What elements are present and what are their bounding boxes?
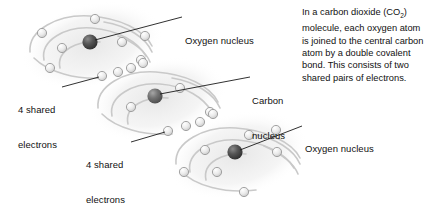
label-text: Carbon: [252, 95, 285, 107]
electron: [179, 167, 188, 176]
electron: [140, 31, 149, 40]
label-text: Oxygen nucleus: [185, 35, 254, 47]
label-text: electrons: [86, 194, 125, 206]
shared-electron: [195, 117, 204, 126]
oxygen-left-nucleus: [82, 34, 97, 49]
electron: [200, 145, 209, 154]
electron: [90, 14, 99, 23]
electron: [117, 37, 126, 46]
shared-electron: [113, 67, 122, 76]
label-oxygen-nucleus-top: Oxygen nucleus: [185, 12, 254, 70]
electron: [212, 167, 221, 176]
shared-electron: [97, 71, 106, 80]
electron: [57, 43, 66, 52]
electron: [126, 102, 135, 111]
label-text: nucleus: [252, 130, 285, 142]
shared-electron: [138, 58, 147, 67]
shared-electron: [126, 63, 135, 72]
label-text: electrons: [18, 139, 57, 151]
label-carbon-nucleus: Carbon nucleus: [252, 72, 285, 164]
label-text: 4 shared: [18, 104, 57, 116]
oxygen-right-nucleus: [227, 144, 242, 159]
electron: [37, 28, 46, 37]
shared-electron: [208, 109, 217, 118]
electron: [45, 63, 54, 72]
figure-caption: In a carbon dioxide (CO2) molecule, each…: [302, 6, 428, 84]
shared-electron: [181, 121, 190, 130]
label-oxygen-nucleus-bottom: Oxygen nucleus: [305, 120, 374, 178]
label-text: 4 shared: [86, 159, 125, 171]
shared-electron: [163, 126, 172, 135]
label-shared-electrons-top: 4 shared electrons: [18, 81, 57, 173]
caption-part-2: ) molecule, each oxygen atom is joined t…: [302, 7, 423, 83]
label-shared-electrons-bottom: 4 shared electrons: [86, 136, 125, 212]
figure-canvas: Oxygen nucleus Carbon nucleus Oxygen nuc…: [0, 0, 432, 212]
caption-part-1: In a carbon dioxide (CO: [302, 7, 400, 17]
label-text: Oxygen nucleus: [305, 143, 374, 155]
carbon-center-nucleus: [147, 88, 162, 103]
electron: [239, 187, 248, 196]
